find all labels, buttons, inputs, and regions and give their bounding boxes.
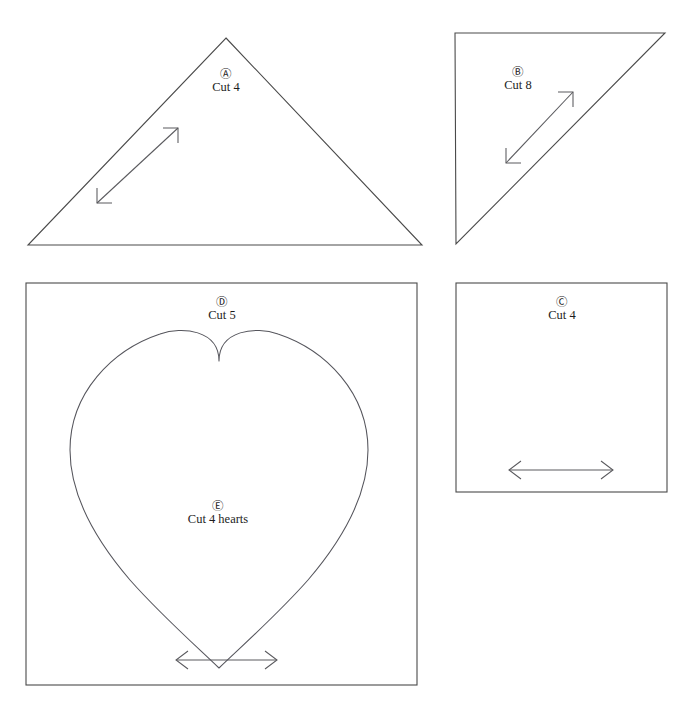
piece-a-letter-badge: Ⓐ <box>212 68 239 80</box>
piece-b-letter-badge: Ⓑ <box>504 66 531 78</box>
piece-b-cut-text: Cut 8 <box>504 79 531 92</box>
piece-c-cut-text: Cut 4 <box>548 309 575 322</box>
piece-a-label: Ⓐ Cut 4 <box>212 68 239 94</box>
piece-e-label: Ⓔ Cut 4 hearts <box>188 500 248 526</box>
piece-e-letter-badge: Ⓔ <box>188 500 248 512</box>
piece-b-label: Ⓑ Cut 8 <box>504 66 531 92</box>
piece-d-square-outline <box>26 283 417 685</box>
piece-b-triangle-outline <box>455 33 665 244</box>
piece-a-cut-text: Cut 4 <box>212 81 239 94</box>
pattern-shapes-canvas <box>0 0 685 705</box>
pattern-sheet: Ⓐ Cut 4 Ⓑ Cut 8 Ⓒ Cut 4 Ⓓ Cut 5 Ⓔ Cut 4 … <box>0 0 685 705</box>
piece-d-label: Ⓓ Cut 5 <box>208 296 235 322</box>
piece-c-letter-badge: Ⓒ <box>548 296 575 308</box>
piece-d-cut-text: Cut 5 <box>208 309 235 322</box>
piece-e-cut-text: Cut 4 hearts <box>188 513 248 526</box>
piece-c-label: Ⓒ Cut 4 <box>548 296 575 322</box>
piece-d-letter-badge: Ⓓ <box>208 296 235 308</box>
